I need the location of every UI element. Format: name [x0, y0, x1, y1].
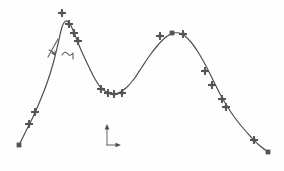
bimodal-curve-plot: [0, 0, 284, 171]
curve-layer: [19, 21, 268, 152]
data-point-marker: [156, 32, 164, 40]
data-point-marker: [97, 85, 105, 93]
handwritten-annotation: [48, 39, 73, 59]
x-axis-arrow-icon: [116, 143, 122, 148]
axes-corner-icon: [107, 127, 118, 145]
data-point-marker: [58, 9, 66, 17]
data-marker-layer: [17, 9, 271, 154]
data-point-marker: [266, 150, 271, 155]
data-point-marker: [201, 67, 209, 75]
data-point-marker: [208, 81, 216, 89]
data-point-marker: [110, 90, 118, 98]
data-point-marker: [70, 29, 78, 37]
data-point-marker: [17, 143, 22, 148]
tilde-squiggle-icon: [62, 52, 73, 59]
data-point-marker: [170, 31, 175, 36]
data-point-marker: [74, 37, 82, 45]
figure-canvas: [0, 0, 284, 171]
y-axis-arrow-icon: [105, 124, 110, 130]
coordinate-axes-icon: [105, 124, 121, 147]
data-point-marker: [118, 89, 126, 97]
data-point-marker: [25, 120, 33, 128]
data-point-marker: [31, 108, 39, 116]
data-point-marker: [104, 89, 112, 97]
curve-path: [19, 21, 268, 152]
